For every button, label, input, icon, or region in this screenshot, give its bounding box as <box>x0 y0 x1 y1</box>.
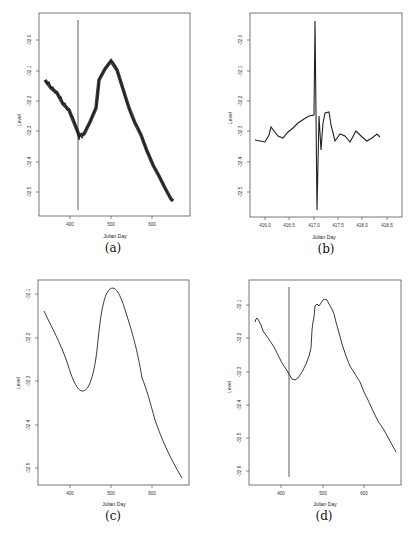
y-tick-label: -32.1 <box>26 288 31 299</box>
y-tick-label: -32.3 <box>238 125 243 136</box>
data-series <box>255 299 396 452</box>
plot-frame <box>39 13 190 216</box>
y-tick-label: -32.5 <box>27 186 32 197</box>
y-axis: -32.0 -32.1 -32.2 -32.3 -32.4 -32.5 Leve… <box>227 34 250 197</box>
y-axis: -32.1 -32.2 -32.3 -32.4 -32.5 Level <box>15 288 38 473</box>
panel-c: -32.1 -32.2 -32.3 -32.4 -32.5 Level 400 … <box>15 280 189 523</box>
y-axis-label: Level <box>226 381 232 393</box>
x-axis-label: Julian Day <box>102 501 126 507</box>
data-series <box>45 61 173 201</box>
x-tick-label: 417.0 <box>308 223 320 228</box>
y-tick-label: -32.6 <box>237 465 242 476</box>
y-tick-label: -32.3 <box>237 366 242 377</box>
x-tick-label: 600 <box>148 491 156 496</box>
x-tick-label: 600 <box>148 222 156 227</box>
y-tick-label: -32.2 <box>237 332 242 343</box>
x-axis-label: Julian Day <box>103 233 127 239</box>
x-axis: 416.0 416.5 417.0 417.5 418.0 418.5 Juli… <box>259 217 393 240</box>
x-tick-label: 418.5 <box>381 223 393 228</box>
y-axis-label: Level <box>15 377 21 389</box>
y-tick-label: -32.3 <box>27 125 32 136</box>
y-tick-label: -32.4 <box>238 156 243 167</box>
panel-caption: (b) <box>317 242 334 256</box>
x-axis: 400 500 600 Julian Day <box>66 485 156 507</box>
y-tick-label: -32.5 <box>238 186 243 197</box>
x-tick-label: 416.0 <box>259 223 271 228</box>
y-tick-label: -32.0 <box>27 34 32 45</box>
y-tick-label: -32.4 <box>27 156 32 167</box>
x-tick-label: 600 <box>360 491 368 496</box>
x-axis: 400 500 600 Julian Day <box>277 485 368 507</box>
y-tick-label: -32.1 <box>27 65 32 76</box>
x-axis: 400 500 600 Julian Day <box>66 216 156 239</box>
y-tick-label: -32.5 <box>26 462 31 473</box>
plot-frame <box>250 13 402 217</box>
y-tick-label: -32.2 <box>26 332 31 343</box>
panel-b: -32.0 -32.1 -32.2 -32.3 -32.4 -32.5 Leve… <box>227 13 402 256</box>
panel-caption: (a) <box>105 241 122 255</box>
data-series <box>44 288 182 478</box>
x-tick-label: 417.5 <box>332 223 344 228</box>
y-tick-label: -32.1 <box>238 65 243 76</box>
plot-frame <box>249 280 401 485</box>
y-tick-label: -32.3 <box>26 375 31 386</box>
x-axis-label: Julian Day <box>312 234 336 240</box>
y-tick-label: -32.2 <box>238 95 243 106</box>
y-tick-label: -32.0 <box>238 34 243 45</box>
y-tick-label: -32.4 <box>237 399 242 410</box>
data-noise-band <box>45 61 173 201</box>
y-tick-label: -32.1 <box>237 299 242 310</box>
panel-a: -32.0 -32.1 -32.2 -32.3 -32.4 -32.5 Leve… <box>16 13 190 255</box>
panel-caption: (c) <box>105 509 121 523</box>
y-tick-label: -32.4 <box>26 419 31 430</box>
figure: -32.0 -32.1 -32.2 -32.3 -32.4 -32.5 Leve… <box>0 0 414 534</box>
x-axis-label: Julian Day <box>313 501 337 507</box>
y-axis-label: Level <box>227 112 233 124</box>
y-axis: -32.0 -32.1 -32.2 -32.3 -32.4 -32.5 Leve… <box>16 34 39 197</box>
panel-caption: (d) <box>315 509 332 523</box>
y-tick-label: -32.5 <box>237 432 242 443</box>
x-tick-label: 400 <box>66 222 74 227</box>
x-tick-label: 400 <box>66 491 74 496</box>
x-tick-label: 500 <box>319 491 327 496</box>
x-tick-label: 400 <box>277 491 285 496</box>
x-tick-label: 500 <box>107 222 115 227</box>
plot-frame <box>38 280 189 485</box>
x-tick-label: 416.5 <box>283 223 295 228</box>
y-axis-label: Level <box>16 114 22 126</box>
x-tick-label: 418.0 <box>356 223 368 228</box>
panel-d: -32.1 -32.2 -32.3 -32.4 -32.5 -32.6 Leve… <box>226 280 401 523</box>
y-axis: -32.1 -32.2 -32.3 -32.4 -32.5 -32.6 Leve… <box>226 299 249 476</box>
data-series <box>255 21 380 210</box>
x-tick-label: 500 <box>107 491 115 496</box>
y-tick-label: -32.2 <box>27 95 32 106</box>
